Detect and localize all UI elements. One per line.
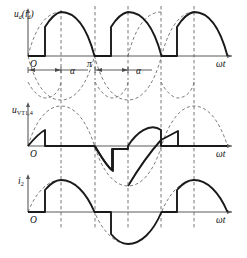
panel-ud-origin-label: O	[30, 59, 37, 69]
waveform-uvt-peak	[161, 131, 178, 146]
waveform-uvt	[28, 127, 227, 170]
panel-ud: ud(id) O ωt π α α	[14, 6, 232, 100]
waveform-figure: ud(id) O ωt π α α	[0, 0, 247, 258]
panel-ud-y-label: ud(id)	[14, 9, 34, 20]
alpha-label-2: α	[136, 66, 142, 76]
alpha-dimension-1	[28, 67, 88, 73]
panel-i2-y-label: i2	[18, 176, 24, 187]
pi-label-ud: π	[87, 59, 92, 69]
panel-uvt: uVT1,4 O ωt	[12, 82, 232, 186]
axis-uvt	[26, 102, 232, 148]
panel-ud-x-label: ωt	[216, 59, 226, 69]
waveform-uvt-rise	[128, 140, 161, 186]
alpha-dimension-2	[95, 67, 152, 73]
axis-ud	[26, 8, 232, 58]
guide-lines-ud	[61, 6, 194, 80]
panel-i2-x-label: ωt	[216, 215, 226, 225]
panel-i2-origin-label: O	[30, 215, 37, 225]
panel-uvt-x-label: ωt	[216, 149, 226, 159]
alpha-label-1: α	[70, 66, 76, 76]
panel-uvt-origin-label: O	[30, 149, 37, 159]
panel-i2: i2 O ωt	[18, 170, 232, 244]
guide-lines-i2	[61, 170, 194, 230]
guide-lines-uvt	[61, 82, 194, 168]
